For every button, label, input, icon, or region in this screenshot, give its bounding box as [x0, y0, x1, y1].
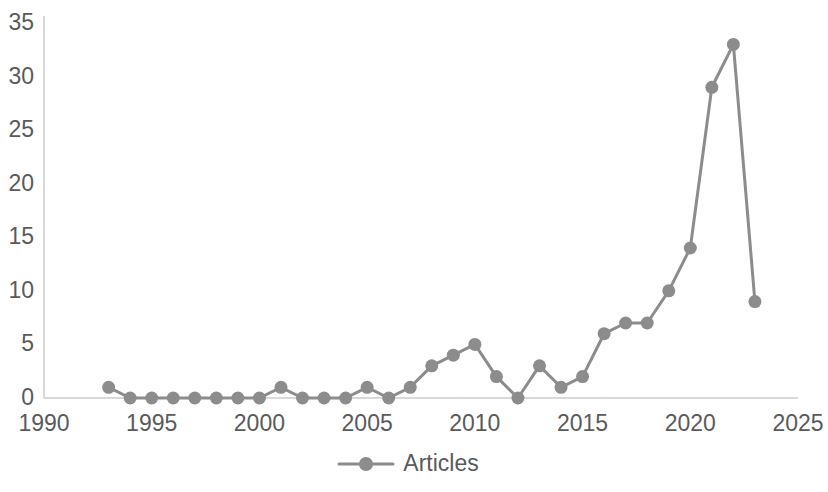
data-point [468, 338, 481, 351]
data-point [102, 381, 115, 394]
y-axis-tick-label: 35 [0, 11, 34, 34]
chart-axes [44, 16, 798, 398]
y-axis-tick-label: 15 [0, 225, 34, 248]
data-point [662, 284, 675, 297]
y-axis-tick-label: 0 [0, 386, 34, 409]
series-articles-line [109, 44, 755, 398]
data-point [253, 392, 266, 405]
data-point [619, 317, 632, 330]
data-point [598, 327, 611, 340]
x-axis-tick-label: 2015 [541, 412, 625, 435]
x-axis-tick-label: 2020 [648, 412, 732, 435]
data-point [145, 392, 158, 405]
data-point [555, 381, 568, 394]
data-point [425, 359, 438, 372]
data-point [318, 392, 331, 405]
data-point [296, 392, 309, 405]
data-point [533, 359, 546, 372]
data-point [684, 242, 697, 255]
x-axis-tick-label: 2005 [325, 412, 409, 435]
data-point [231, 392, 244, 405]
data-point [490, 370, 503, 383]
data-point [274, 381, 287, 394]
series-articles-markers [102, 38, 761, 405]
data-point [447, 349, 460, 362]
x-axis-tick-label: 2000 [217, 412, 301, 435]
data-point [210, 392, 223, 405]
y-axis-tick-label: 25 [0, 118, 34, 141]
y-axis-tick-label: 20 [0, 172, 34, 195]
legend-marker-icon [337, 454, 395, 474]
data-point [511, 392, 524, 405]
y-axis-tick-label: 30 [0, 65, 34, 88]
series-articles [102, 38, 761, 405]
data-point [167, 392, 180, 405]
data-point [339, 392, 352, 405]
data-point [641, 317, 654, 330]
data-point [188, 392, 201, 405]
data-point [404, 381, 417, 394]
legend-label-articles: Articles [403, 452, 478, 475]
data-point [382, 392, 395, 405]
x-axis-tick-label: 2025 [756, 412, 828, 435]
x-axis-tick-label: 1995 [110, 412, 194, 435]
chart-legend: Articles [0, 452, 816, 475]
data-point [576, 370, 589, 383]
x-axis-tick-label: 1990 [2, 412, 86, 435]
data-point [124, 392, 137, 405]
data-point [705, 81, 718, 94]
y-axis-tick-label: 5 [0, 332, 34, 355]
x-axis-tick-label: 2010 [433, 412, 517, 435]
data-point [748, 295, 761, 308]
data-point [727, 38, 740, 51]
y-axis-tick-label: 10 [0, 279, 34, 302]
data-point [361, 381, 374, 394]
